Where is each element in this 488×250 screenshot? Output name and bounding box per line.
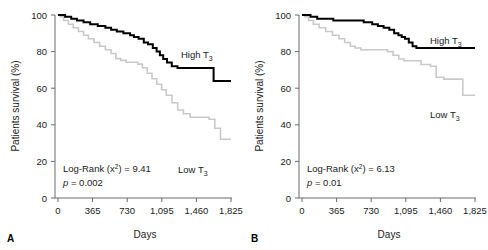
y-axis-title: Patients survival (%): [10, 60, 21, 151]
x-tick-label-0: 0: [55, 205, 60, 216]
x-tick-label-1825: 1,825: [463, 205, 487, 216]
x-tick-label-1460: 1,460: [185, 205, 209, 216]
y-tick-label-0: 0: [286, 193, 291, 204]
p-value: p = 0.002: [62, 177, 103, 188]
y-tick-label-40: 40: [36, 119, 47, 130]
y-tick-label-80: 80: [36, 46, 47, 57]
y-tick-label-0: 0: [42, 193, 47, 204]
x-tick-label-730: 730: [119, 205, 135, 216]
x-axis-title: Days: [378, 229, 401, 240]
y-tick-label-100: 100: [275, 10, 291, 21]
logrank-statistic: Log-Rank (x2) = 6.13: [307, 163, 395, 175]
high-t3-label: High T3: [181, 49, 213, 62]
x-axis-ticks: [302, 198, 475, 202]
y-tick-label-20: 20: [280, 156, 291, 167]
x-axis-ticks: [58, 198, 231, 202]
x-axis-title: Days: [134, 229, 157, 240]
low-t3-label: Low T3: [178, 164, 208, 177]
x-tick-label-1095: 1,095: [394, 205, 418, 216]
y-tick-label-80: 80: [280, 46, 291, 57]
high-t3-label: High T3: [430, 35, 462, 48]
y-axis-ticks: [51, 15, 55, 198]
p-value: p = 0.01: [306, 177, 342, 188]
low-t3-label: Low T3: [430, 109, 460, 122]
y-tick-label-60: 60: [280, 83, 291, 94]
panel-a-plot: 0 20 40 60 80 100 0 365 730 1,095 1,460 …: [0, 0, 244, 250]
y-tick-label-20: 20: [36, 156, 47, 167]
high-t3-curve: [58, 15, 231, 81]
x-tick-label-1825: 1,825: [219, 205, 243, 216]
panel-a: 0 20 40 60 80 100 0 365 730 1,095 1,460 …: [0, 0, 244, 250]
y-axis-title: Patients survival (%): [254, 60, 265, 151]
x-tick-label-365: 365: [85, 205, 101, 216]
panel-letter-a: A: [7, 233, 14, 244]
x-tick-label-1095: 1,095: [150, 205, 174, 216]
panel-b: 0 20 40 60 80 100 0 365 730 1,095 1,460 …: [244, 0, 488, 250]
x-tick-label-730: 730: [363, 205, 379, 216]
low-t3-curve: [58, 15, 231, 139]
y-tick-label-40: 40: [280, 119, 291, 130]
x-tick-label-1460: 1,460: [429, 205, 453, 216]
kaplan-meier-figure: 0 20 40 60 80 100 0 365 730 1,095 1,460 …: [0, 0, 488, 250]
y-tick-label-60: 60: [36, 83, 47, 94]
x-tick-label-365: 365: [329, 205, 345, 216]
logrank-statistic: Log-Rank (x2) = 9.41: [63, 163, 151, 175]
y-tick-label-100: 100: [31, 10, 47, 21]
panel-b-plot: 0 20 40 60 80 100 0 365 730 1,095 1,460 …: [244, 0, 488, 250]
x-tick-label-0: 0: [299, 205, 304, 216]
y-axis-ticks: [295, 15, 299, 198]
panel-letter-b: B: [251, 233, 258, 244]
